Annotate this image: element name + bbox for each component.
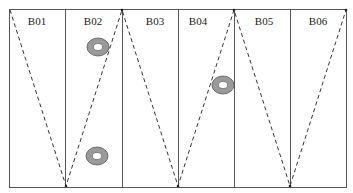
- cell-label-b06: B06: [309, 15, 328, 27]
- cell-label-b05: B05: [255, 15, 274, 27]
- zigzag-diagram: B01 B02 B03 B04 B05 B06: [0, 0, 353, 193]
- ring-marker-b02-upper: [87, 38, 109, 56]
- cell-label-b01: B01: [28, 15, 46, 27]
- ring-marker-b04-middle: [212, 76, 234, 94]
- cell-label-b03: B03: [146, 15, 165, 27]
- cell-label-b02: B02: [84, 15, 102, 27]
- ring-marker-b02-lower: [86, 147, 108, 165]
- cell-label-b04: B04: [189, 15, 208, 27]
